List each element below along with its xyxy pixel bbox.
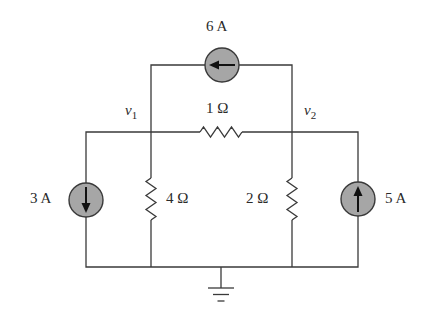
label-1-ohm: 1 Ω — [206, 100, 228, 117]
circuit-schematic — [0, 0, 436, 322]
circuit-diagram: 6 A 3 A 5 A 1 Ω 4 Ω 2 Ω v1 v2 — [0, 0, 436, 322]
current-source-6a — [205, 48, 239, 82]
node-v1-symbol: v — [125, 102, 132, 118]
resistor-4-ohm — [146, 178, 156, 220]
node-v1-subscript: 1 — [132, 109, 138, 121]
current-source-5a — [341, 182, 375, 216]
node-v2-subscript: 2 — [311, 109, 317, 121]
resistor-1-ohm — [200, 127, 242, 137]
resistor-2-ohm — [287, 178, 297, 220]
current-source-3a — [69, 183, 103, 217]
label-6a: 6 A — [206, 18, 227, 35]
ground-icon — [208, 267, 234, 301]
node-v2-symbol: v — [304, 102, 311, 118]
label-5a: 5 A — [385, 190, 406, 207]
top-rail-wires — [86, 132, 358, 183]
label-2-ohm: 2 Ω — [246, 190, 268, 207]
bottom-rail-wire — [86, 216, 358, 267]
label-3a: 3 A — [30, 190, 51, 207]
label-4-ohm: 4 Ω — [166, 190, 188, 207]
node-label-v1: v1 — [125, 102, 137, 121]
node-label-v2: v2 — [304, 102, 316, 121]
